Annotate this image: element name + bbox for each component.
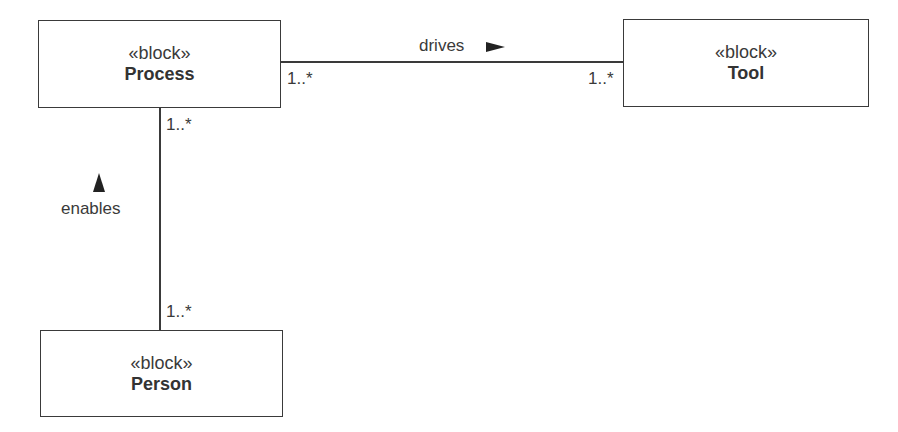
enables-label: enables xyxy=(61,199,121,219)
process-stereotype: «block» xyxy=(128,43,190,63)
drives-label: drives xyxy=(419,36,464,56)
block-person: «block» Person xyxy=(40,330,283,417)
block-tool: «block» Tool xyxy=(623,19,869,107)
triangle-up-icon xyxy=(92,173,106,193)
tool-name: Tool xyxy=(728,62,765,84)
drives-source-multiplicity: 1..* xyxy=(287,69,313,89)
person-stereotype: «block» xyxy=(130,353,192,373)
enables-source-multiplicity: 1..* xyxy=(166,115,192,135)
person-name: Person xyxy=(131,373,192,395)
tool-stereotype: «block» xyxy=(715,42,777,62)
enables-association-line xyxy=(159,107,161,330)
process-name: Process xyxy=(124,63,194,85)
block-process: «block» Process xyxy=(38,20,281,108)
triangle-right-icon xyxy=(486,40,506,54)
enables-target-multiplicity: 1..* xyxy=(166,302,192,322)
drives-association-line xyxy=(281,61,623,63)
drives-target-multiplicity: 1..* xyxy=(588,69,614,89)
